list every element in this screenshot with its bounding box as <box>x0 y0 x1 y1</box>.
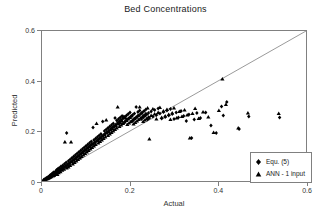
legend-box: Equ. (5) ANN - 1 input <box>250 152 312 183</box>
legend-label-ann-1-input: ANN - 1 input <box>266 171 305 178</box>
legend-item-ann-1-input: ANN - 1 input <box>255 168 308 180</box>
triangle-marker-icon <box>255 170 262 178</box>
x-tick-0 <box>41 182 42 186</box>
series-ann-1-input-points <box>42 77 281 181</box>
x-tick-label-3: 0.6 <box>302 187 312 194</box>
x-tick-label-2: 0.4 <box>213 187 223 194</box>
x-tick-label-1: 0.2 <box>125 187 135 194</box>
x-tick-label-0: 0 <box>39 187 43 194</box>
chart-figure: Bed Concentrations Predicted 0 0.2 0.4 0… <box>0 0 331 214</box>
y-tick-label-0: 0 <box>5 179 35 186</box>
y-tick-label-3: 0.6 <box>5 27 35 34</box>
y-tick-label-2: 0.4 <box>5 77 35 84</box>
x-axis-title: Actual <box>41 199 307 208</box>
legend-item-equ-5: Equ. (5) <box>255 156 308 168</box>
diamond-marker-icon <box>255 158 262 166</box>
chart-title: Bed Concentrations <box>0 4 331 14</box>
x-tick-1 <box>130 182 131 186</box>
legend-label-equ-5: Equ. (5) <box>266 159 289 166</box>
x-tick-2 <box>218 182 219 186</box>
y-tick-label-1: 0.2 <box>5 128 35 135</box>
